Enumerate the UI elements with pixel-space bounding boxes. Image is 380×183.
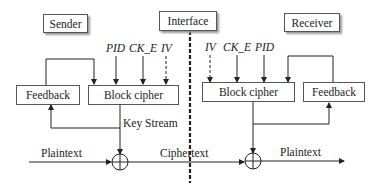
- receiver-plaintext-label: Plaintext: [280, 146, 321, 158]
- receiver-feedback-box: Feedback: [303, 82, 365, 102]
- sender-input-cke: CK_E: [129, 42, 157, 54]
- sender-title: Sender: [43, 14, 88, 33]
- cfb-encryption-diagram: Sender Interface Receiver PID CK_E IV IV…: [0, 0, 380, 183]
- sender-input-pid: PID: [106, 42, 125, 54]
- sender-feedback-box: Feedback: [16, 85, 80, 105]
- receiver-input-iv: IV: [205, 41, 216, 53]
- ciphertext-label: Ciphertext: [160, 147, 209, 159]
- sender-plaintext-label: Plaintext: [41, 147, 82, 159]
- receiver-input-pid: PID: [255, 41, 274, 53]
- receiver-title: Receiver: [284, 13, 340, 32]
- sender-block-cipher-box: Block cipher: [88, 85, 179, 105]
- sender-input-iv: IV: [161, 42, 172, 54]
- interface-title: Interface: [159, 11, 217, 31]
- key-stream-label: Key Stream: [123, 117, 178, 129]
- receiver-input-cke: CK_E: [223, 41, 251, 53]
- receiver-block-cipher-box: Block cipher: [202, 82, 295, 102]
